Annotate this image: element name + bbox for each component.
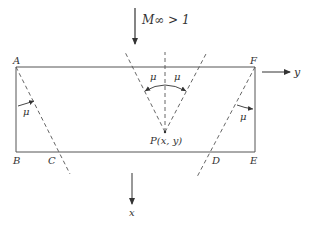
mach-line-fd bbox=[197, 67, 255, 177]
angle-arc-center bbox=[145, 85, 186, 91]
angle-arc-right bbox=[237, 105, 253, 109]
mach-line-diagram: M∞ > 1 y x μ μ μ μ bbox=[0, 0, 309, 225]
y-axis-label: y bbox=[293, 66, 301, 79]
x-axis-label: x bbox=[129, 207, 135, 218]
corner-d-label: D bbox=[211, 155, 220, 166]
corner-b-label: B bbox=[12, 155, 20, 166]
corner-a-label: A bbox=[12, 55, 20, 66]
point-p-marker bbox=[164, 131, 166, 133]
point-p-label: P(x, y) bbox=[149, 135, 182, 146]
corner-e-label: E bbox=[249, 155, 258, 166]
angle-mu-center-left: μ bbox=[150, 71, 157, 82]
mach-cone-lines bbox=[125, 52, 207, 132]
corner-c-label: C bbox=[48, 155, 56, 166]
angle-mu-right: μ bbox=[240, 111, 247, 122]
domain-rectangle bbox=[16, 67, 255, 152]
mach-line-ac bbox=[16, 67, 70, 174]
angle-mu-left: μ bbox=[23, 106, 30, 117]
angle-mu-center-right: μ bbox=[174, 71, 181, 82]
corner-f-label: F bbox=[249, 55, 258, 66]
freestream-mach-label: M∞ > 1 bbox=[141, 13, 190, 27]
